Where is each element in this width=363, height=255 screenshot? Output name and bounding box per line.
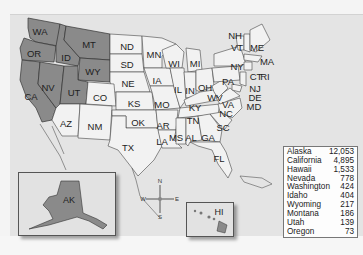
label-AZ: AZ (60, 118, 72, 129)
label-SC: SC (216, 122, 229, 133)
svg-text:E: E (175, 196, 179, 202)
label-CT: CT (250, 71, 263, 82)
label-NV: NV (41, 82, 55, 93)
label-VT: VT (231, 42, 243, 53)
compass-rose-icon: N S E W (140, 178, 179, 220)
label-TN: TN (187, 115, 200, 126)
label-NY: NY (230, 61, 244, 72)
label-KS: KS (128, 98, 141, 109)
label-VA: VA (222, 99, 235, 110)
label-LA: LA (156, 136, 168, 147)
hawaii-map: HI (187, 203, 233, 236)
label-IA: IA (153, 75, 163, 86)
label-ME: ME (250, 42, 264, 53)
state-FL (190, 142, 232, 178)
label-MT: MT (82, 39, 96, 50)
label-KY: KY (189, 102, 202, 113)
state-CT (244, 62, 252, 70)
label-ND: ND (120, 41, 134, 52)
label-CO: CO (93, 92, 107, 103)
label-OR: OR (27, 48, 41, 59)
label-MD: MD (247, 101, 262, 112)
svg-text:W: W (140, 196, 146, 202)
label-SD: SD (120, 59, 133, 70)
label-PA: PA (222, 76, 235, 87)
label-WV: WV (207, 92, 223, 103)
label-MN: MN (147, 49, 162, 60)
label-AK: AK (63, 195, 75, 205)
label-MO: MO (154, 99, 169, 110)
label-WA: WA (33, 26, 49, 37)
data-legend-table: Alaska12,053 California4,895 Hawaii1,533… (283, 146, 358, 238)
label-OK: OK (131, 117, 145, 128)
label-GA: GA (201, 132, 215, 143)
label-NE: NE (121, 78, 134, 89)
alaska-map: AK (19, 173, 115, 235)
label-WI: WI (168, 58, 180, 69)
label-ID: ID (61, 52, 71, 63)
state-NJ (240, 72, 246, 86)
svg-text:N: N (158, 178, 162, 184)
label-MI: MI (190, 58, 201, 69)
label-CA: CA (24, 91, 38, 102)
alaska-inset: AK (18, 172, 116, 236)
svg-text:S: S (158, 214, 162, 220)
legend-row: Oregon73 (287, 228, 354, 237)
label-IL: IL (174, 84, 182, 95)
label-FL: FL (213, 153, 224, 164)
label-IN: IN (185, 85, 195, 96)
label-WY: WY (85, 66, 101, 77)
label-TX: TX (122, 142, 135, 153)
hawaii-inset: HI (186, 202, 234, 237)
label-AL: AL (185, 132, 197, 143)
label-HI: HI (215, 207, 224, 217)
label-MA: MA (260, 56, 275, 67)
label-NH: NH (228, 30, 242, 41)
label-AR: AR (156, 120, 169, 131)
label-MS: MS (169, 132, 183, 143)
label-NM: NM (88, 121, 103, 132)
label-UT: UT (68, 87, 81, 98)
